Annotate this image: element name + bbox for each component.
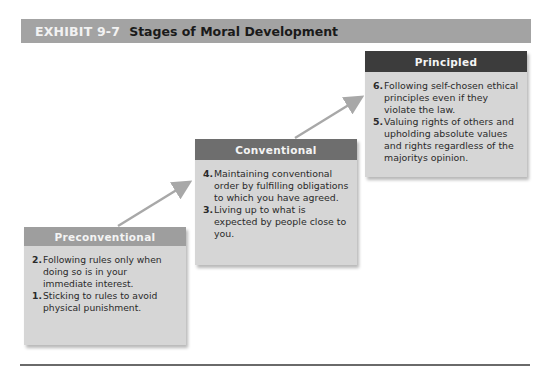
- bottom-rule: [20, 364, 530, 366]
- arrow-conv-to-prin: [295, 98, 360, 138]
- stage-conventional: Conventional 4.Maintaining conventional …: [195, 139, 357, 265]
- stage-preconventional: Preconventional 2.Following rules only w…: [24, 227, 186, 345]
- stage-title: Preconventional: [24, 227, 186, 246]
- stage-item: 2.Following rules only when doing so is …: [32, 254, 178, 290]
- stage-item: 4.Maintaining conventional order by fulf…: [203, 168, 349, 204]
- stage-item: 1.Sticking to rules to avoid physical pu…: [32, 290, 178, 314]
- stage-principled: Principled 6.Following self-chosen ethic…: [365, 51, 527, 177]
- stage-item: 3.Living up to what is expected by peopl…: [203, 204, 349, 240]
- stage-title: Principled: [365, 51, 527, 72]
- stage-title: Conventional: [195, 139, 357, 160]
- arrow-pre-to-conv: [118, 183, 188, 226]
- stage-item: 5.Valuing rights of others and upholding…: [373, 116, 519, 164]
- stage-item: 6.Following self-chosen ethical principl…: [373, 80, 519, 116]
